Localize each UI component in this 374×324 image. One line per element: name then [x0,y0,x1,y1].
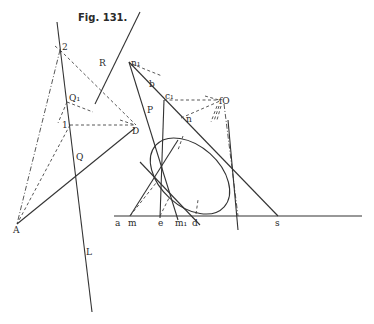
dashed-2-D [60,50,136,125]
dashed-O-down [224,104,238,216]
label-m: m [128,218,137,228]
label-n: n [186,114,192,124]
label-d: d [192,218,198,228]
line-right-tangent [228,120,238,230]
label-c1: c₁ [165,91,174,101]
dashed-O-tick [205,96,219,100]
label-a: a [115,218,121,228]
label-Q1: Q₁ [69,93,80,103]
line-D-A [17,128,135,224]
dashed-D-tick [120,120,135,125]
dashed-2-A [17,50,60,224]
label-Q: Q [76,152,83,162]
ellipse [136,123,245,229]
hatch-1 [211,106,217,122]
label-e: e [158,218,163,228]
label-b: b [149,79,155,89]
label-point-1: 1 [62,120,68,130]
figure-title: Fig. 131. [78,12,127,23]
hatch-3 [217,106,221,120]
label-L: L [86,247,92,257]
label-s: s [275,218,280,228]
label-A: A [12,225,20,235]
label-R: R [99,58,106,68]
label-point-2: 2 [62,42,68,52]
label-O: fO [219,96,230,106]
dashed-m [130,183,156,216]
dashed-e [160,196,170,216]
dashed-1-A [17,125,70,224]
label-m1: m₁ [175,218,187,228]
label-P: P [147,105,153,115]
dashed-Q1-ray [67,102,93,112]
label-n1: n₁ [131,58,140,68]
label-D: D [132,126,139,136]
dashed-d [196,200,198,214]
figure-131-diagram: Fig. 131. L R 2 Q₁ 1 D Q A [0,0,374,324]
line-c1-e [160,100,164,218]
tick-2 [55,46,62,52]
